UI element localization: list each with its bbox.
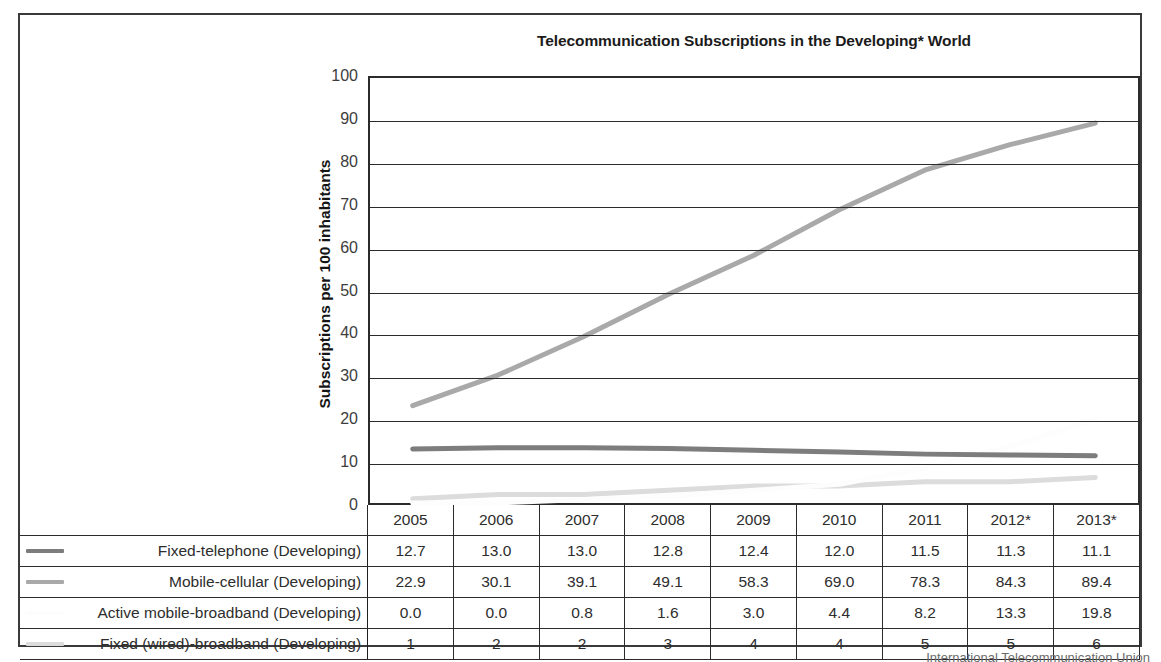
column-header-2013-est: 2013* bbox=[1054, 505, 1140, 536]
figure-container: Telecommunication Subscriptions in the D… bbox=[0, 0, 1161, 662]
column-header-2005: 2005 bbox=[368, 505, 454, 536]
data-cell: 3.0 bbox=[711, 598, 797, 629]
data-cell: 39.1 bbox=[539, 567, 625, 598]
plot-area bbox=[368, 76, 1140, 505]
legend-label-text: Fixed (wired)-broadband (Developing) bbox=[100, 635, 361, 652]
gridline-70 bbox=[370, 207, 1138, 208]
gridline-90 bbox=[370, 121, 1138, 122]
data-cell: 0.0 bbox=[368, 598, 454, 629]
data-cell: 1.6 bbox=[625, 598, 711, 629]
legend-label-text: Active mobile-broadband (Developing) bbox=[97, 604, 361, 621]
gridline-80 bbox=[370, 164, 1138, 165]
data-cell: 13.0 bbox=[453, 536, 539, 567]
table-row: Fixed-telephone (Developing)12.713.013.0… bbox=[20, 536, 1140, 567]
y-tick-50: 50 bbox=[302, 282, 358, 300]
y-tick-70: 70 bbox=[302, 196, 358, 214]
data-cell: 89.4 bbox=[1054, 567, 1140, 598]
data-cell: 1 bbox=[368, 629, 454, 660]
legend-label-text: Fixed-telephone (Developing) bbox=[158, 542, 361, 559]
gridline-30 bbox=[370, 378, 1138, 379]
y-tick-40: 40 bbox=[302, 324, 358, 342]
data-cell: 69.0 bbox=[796, 567, 882, 598]
data-cell: 84.3 bbox=[968, 567, 1054, 598]
data-cell: 11.3 bbox=[968, 536, 1054, 567]
data-cell: 30.1 bbox=[453, 567, 539, 598]
series-lines bbox=[370, 78, 1138, 503]
data-cell: 12.0 bbox=[796, 536, 882, 567]
table-header-corner bbox=[20, 505, 368, 536]
y-tick-90: 90 bbox=[302, 110, 358, 128]
data-cell: 13.0 bbox=[539, 536, 625, 567]
data-cell: 4.4 bbox=[796, 598, 882, 629]
column-header-2011: 2011 bbox=[882, 505, 968, 536]
legend-swatch-icon bbox=[26, 642, 64, 646]
data-cell: 11.5 bbox=[882, 536, 968, 567]
data-cell: 12.7 bbox=[368, 536, 454, 567]
legend-label-cell: Active mobile-broadband (Developing) bbox=[20, 598, 368, 629]
y-tick-100: 100 bbox=[302, 67, 358, 85]
column-header-2010: 2010 bbox=[796, 505, 882, 536]
gridline-40 bbox=[370, 335, 1138, 336]
data-cell: 11.1 bbox=[1054, 536, 1140, 567]
column-header-2012-est: 2012* bbox=[968, 505, 1054, 536]
data-cell: 58.3 bbox=[711, 567, 797, 598]
legend-label-cell: Fixed (wired)-broadband (Developing) bbox=[20, 629, 368, 660]
data-table: 20052006200720082009201020112012*2013*Fi… bbox=[20, 505, 1140, 660]
column-header-2008: 2008 bbox=[625, 505, 711, 536]
legend-swatch-icon bbox=[26, 549, 64, 553]
gridline-60 bbox=[370, 250, 1138, 251]
data-cell: 8.2 bbox=[882, 598, 968, 629]
source-footnote: International Telecommunication Union bbox=[620, 650, 1150, 662]
data-cell: 2 bbox=[539, 629, 625, 660]
table-header-row: 20052006200720082009201020112012*2013* bbox=[20, 505, 1140, 536]
legend-swatch-icon bbox=[26, 611, 64, 615]
chart-title: Telecommunication Subscriptions in the D… bbox=[368, 32, 1140, 50]
gridline-20 bbox=[370, 421, 1138, 422]
series-line-active-mobile-broadband-developing bbox=[413, 419, 1096, 503]
data-cell: 78.3 bbox=[882, 567, 968, 598]
legend-swatch-icon bbox=[26, 580, 64, 584]
data-cell: 49.1 bbox=[625, 567, 711, 598]
data-cell: 0.0 bbox=[453, 598, 539, 629]
column-header-2006: 2006 bbox=[453, 505, 539, 536]
column-header-2009: 2009 bbox=[711, 505, 797, 536]
data-cell: 0.8 bbox=[539, 598, 625, 629]
legend-label-cell: Fixed-telephone (Developing) bbox=[20, 536, 368, 567]
data-cell: 12.4 bbox=[711, 536, 797, 567]
y-tick-20: 20 bbox=[302, 410, 358, 428]
data-cell: 13.3 bbox=[968, 598, 1054, 629]
data-cell: 2 bbox=[453, 629, 539, 660]
y-axis-title-holder: Subscriptions per 100 inhabitants bbox=[236, 110, 270, 470]
data-cell: 19.8 bbox=[1054, 598, 1140, 629]
gridline-10 bbox=[370, 464, 1138, 465]
data-cell: 22.9 bbox=[368, 567, 454, 598]
y-tick-10: 10 bbox=[302, 453, 358, 471]
y-tick-60: 60 bbox=[302, 239, 358, 257]
table-row: Mobile-cellular (Developing)22.930.139.1… bbox=[20, 567, 1140, 598]
y-axis-tick-labels: 1009080706050403020100 bbox=[296, 76, 358, 505]
y-tick-30: 30 bbox=[302, 367, 358, 385]
column-header-2007: 2007 bbox=[539, 505, 625, 536]
series-line-mobile-cellular-developing bbox=[413, 123, 1096, 406]
legend-label-cell: Mobile-cellular (Developing) bbox=[20, 567, 368, 598]
legend-label-text: Mobile-cellular (Developing) bbox=[169, 573, 361, 590]
gridline-50 bbox=[370, 293, 1138, 294]
y-tick-80: 80 bbox=[302, 153, 358, 171]
table-row: Active mobile-broadband (Developing)0.00… bbox=[20, 598, 1140, 629]
data-cell: 12.8 bbox=[625, 536, 711, 567]
